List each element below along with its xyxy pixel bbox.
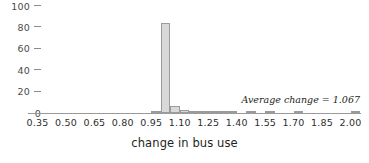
x-tick-label: 1.55 <box>254 117 276 128</box>
x-tick-label: 1.85 <box>311 117 333 128</box>
y-tick-label: 100 <box>8 1 30 13</box>
x-tick-label: 1.40 <box>226 117 248 128</box>
y-tick-label: 80 <box>8 22 30 34</box>
bar <box>161 23 170 113</box>
y-tick-label: 60 <box>8 43 30 55</box>
x-tick-label: 1.25 <box>197 117 219 128</box>
x-tick-label: 2.00 <box>340 117 362 128</box>
x-axis: 0.350.500.650.800.951.101.251.401.551.70… <box>28 117 360 131</box>
x-tick-label: 0.95 <box>140 117 162 128</box>
bar <box>170 106 179 113</box>
x-tick-label: 0.65 <box>83 117 105 128</box>
x-axis-line <box>28 113 361 114</box>
y-tick-label: 40 <box>8 65 30 77</box>
y-tick-label: 20 <box>8 86 30 98</box>
x-axis-title: change in bus use <box>0 136 369 150</box>
x-tick-label: 0.80 <box>112 117 134 128</box>
average-change-annotation: Average change = 1.067 <box>241 94 360 105</box>
histogram-figure: 020406080100 Average change = 1.067 0.35… <box>0 0 369 163</box>
x-tick-label: 1.70 <box>283 117 305 128</box>
x-tick-label: 0.50 <box>55 117 77 128</box>
x-tick-label: 0.35 <box>27 117 49 128</box>
x-tick-label: 1.10 <box>169 117 191 128</box>
